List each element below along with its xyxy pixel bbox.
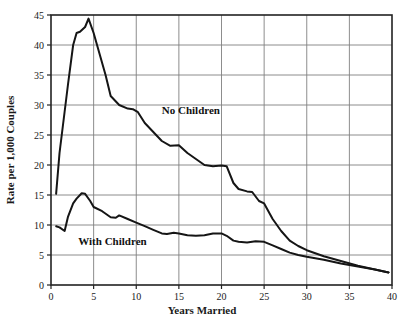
y-tick-label: 15 [34, 190, 44, 201]
y-tick-label: 35 [34, 70, 44, 81]
x-tick-label: 40 [387, 291, 397, 302]
y-tick-label: 5 [39, 250, 44, 261]
y-tick-label: 0 [39, 280, 44, 291]
y-tick-label: 30 [34, 100, 44, 111]
x-tick-label: 0 [49, 291, 54, 302]
x-tick-label: 15 [174, 291, 184, 302]
y-tick-label: 25 [34, 130, 44, 141]
series-label-no-children: No Children [162, 104, 220, 116]
series-label-with-children: With Children [78, 235, 146, 247]
line-chart: 051015202530354045 0510152025303540 No C… [0, 0, 404, 320]
x-axis-title: Years Married [168, 304, 237, 316]
y-axis-title: Rate per 1,000 Couples [4, 95, 16, 204]
y-tick-label: 45 [34, 10, 44, 21]
y-tick-label: 40 [34, 40, 44, 51]
chart-background [0, 0, 404, 320]
x-tick-label: 10 [131, 291, 141, 302]
x-tick-label: 35 [344, 291, 354, 302]
y-tick-label: 20 [34, 160, 44, 171]
x-tick-label: 25 [259, 291, 269, 302]
x-tick-label: 5 [91, 291, 96, 302]
chart-container: 051015202530354045 0510152025303540 No C… [0, 0, 404, 320]
x-tick-label: 20 [217, 291, 227, 302]
y-tick-label: 10 [34, 220, 44, 231]
x-tick-label: 30 [302, 291, 312, 302]
